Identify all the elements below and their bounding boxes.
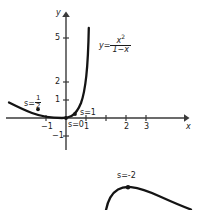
annotation-slope-zero: s=0 [68,121,84,129]
annotation-slope-minus-two: s=-2 [117,172,136,180]
x-tick-3: 3 [144,123,149,131]
annotation-slope-one: s=1 [80,109,96,117]
y-tick-neg1: −1 [52,132,64,140]
marker-slope-minus-two [126,185,130,189]
x-tick-1: 1 [84,123,89,131]
y-tick-2: 2 [55,78,60,86]
equation-lhs: y= [99,41,110,50]
annotation-slope-half-denominator: 2 [35,102,41,110]
equation-numerator-exponent: 2 [121,33,125,40]
curve-left-branch [9,28,89,118]
function-equation-label: y=x21−x [99,34,131,54]
axis-ticks [46,38,146,136]
x-tick-neg1: −1 [41,123,53,131]
x-axis-label: x [186,123,191,131]
equation-fraction: x21−x [110,34,131,54]
x-axis [6,114,190,122]
curve-right-branch [106,187,191,210]
annotation-slope-half-prefix: s= [24,99,35,108]
y-tick-5: 5 [55,34,60,42]
annotation-slope-half-fraction: 12 [35,95,41,110]
annotation-slope-half-numerator: 1 [35,95,41,102]
y-tick-1: 1 [55,96,60,104]
marker-slope-one [73,112,77,116]
x-tick-2: 2 [124,123,129,131]
y-axis-label: y [56,9,61,17]
y-axis [62,12,70,151]
equation-denominator: 1−x [110,45,131,54]
annotation-slope-half: s=12 [24,95,41,110]
